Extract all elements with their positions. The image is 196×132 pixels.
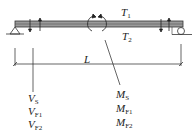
shear-label: VF2 xyxy=(28,119,42,132)
top-fiber-label: T1 xyxy=(121,7,131,22)
dimension-line xyxy=(13,40,183,92)
roller-support-icon xyxy=(172,27,192,35)
span-label: L xyxy=(84,54,90,65)
pin-support-icon xyxy=(6,27,24,34)
bottom-fiber-label: T2 xyxy=(122,31,132,46)
moment-label: MF2 xyxy=(116,117,133,132)
